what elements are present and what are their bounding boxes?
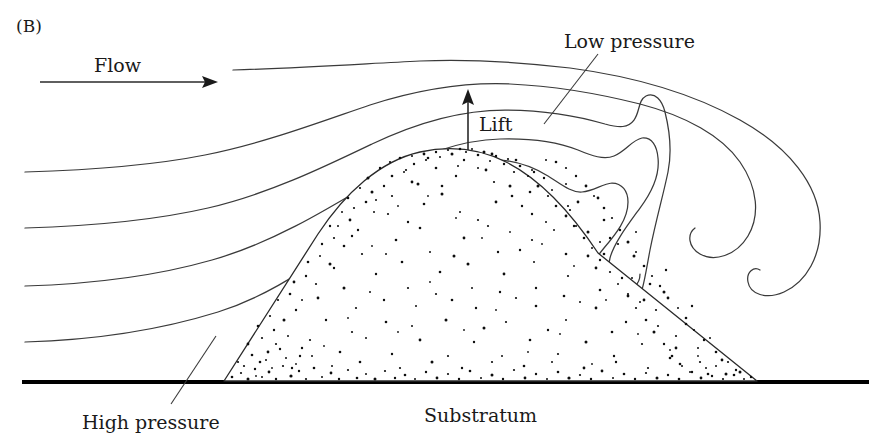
low-pressure-label: Low pressure (564, 30, 695, 52)
flow-label: Flow (94, 54, 142, 76)
mound-outline (224, 149, 757, 381)
low-pressure-leader (544, 54, 598, 124)
figure-container: (B) Flow Lift Low pressure High pressure… (0, 0, 869, 443)
flow-arrow (40, 76, 218, 88)
high-pressure-label: High pressure (82, 411, 220, 433)
flow-over-mound-diagram: (B) Flow Lift Low pressure High pressure… (0, 0, 869, 443)
lift-label: Lift (479, 113, 513, 135)
lift-arrow (462, 89, 474, 150)
high-pressure-leader (171, 336, 216, 404)
substratum-label: Substratum (424, 404, 537, 426)
panel-label: (B) (16, 16, 42, 36)
mound-group (224, 148, 757, 381)
